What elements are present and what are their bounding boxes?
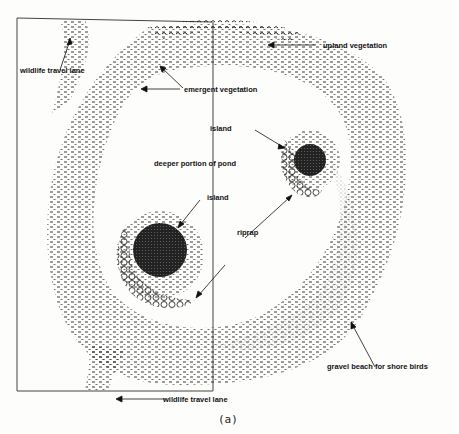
label-emergent-vegetation: emergent vegetation bbox=[184, 85, 257, 94]
label-gravel-beach: gravel beach for shore birds bbox=[327, 362, 428, 371]
vegetation-ring bbox=[47, 24, 406, 385]
label-deeper-portion: deeper portion of pond bbox=[154, 159, 236, 168]
label-island-lower: island bbox=[207, 193, 229, 202]
label-upland-vegetation: upland vegetation bbox=[323, 41, 387, 50]
label-wildlife-travel-lane-top: wildlife travel lane bbox=[20, 66, 85, 75]
island-upper bbox=[294, 144, 326, 176]
label-island-upper: island bbox=[210, 124, 232, 133]
label-wildlife-travel-lane-bottom: wildlife travel lane bbox=[163, 395, 228, 404]
label-riprap: riprap bbox=[237, 228, 258, 237]
island-lower bbox=[133, 223, 187, 277]
figure-caption: (a) bbox=[218, 413, 238, 426]
